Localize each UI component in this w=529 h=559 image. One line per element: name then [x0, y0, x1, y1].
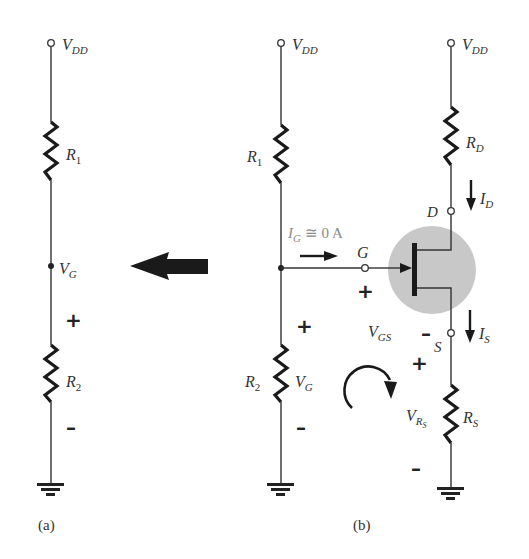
- resistor-r1: [45, 122, 57, 180]
- minus-sign: –: [411, 456, 421, 480]
- label-vrs: VRS: [406, 407, 427, 430]
- vdd-terminal-right: [448, 40, 455, 47]
- label-vdd-right: VDD: [462, 36, 488, 56]
- label-ig: IG ≅ 0 A: [287, 225, 343, 244]
- resistor-rs: [445, 385, 457, 443]
- label-r1: R1: [65, 146, 81, 166]
- ground-icon: [437, 487, 464, 500]
- plus-sign: +: [65, 308, 82, 332]
- ground-icon: [267, 483, 294, 496]
- drain-terminal: [448, 208, 455, 215]
- source-terminal: [448, 330, 455, 337]
- label-vdd-left: VDD: [292, 36, 318, 56]
- minus-sign: –: [66, 415, 76, 439]
- label-vg: VG: [59, 260, 77, 280]
- minus-sign: –: [296, 415, 306, 439]
- caption-b: (b): [353, 517, 371, 534]
- label-is: IS: [478, 325, 490, 345]
- vdd-terminal-left: [278, 40, 285, 47]
- left-arrow-icon: [130, 252, 208, 280]
- circuit-diagram: VDD R1 VG + R2 – (a): [0, 0, 529, 559]
- label-rd: RD: [465, 134, 484, 154]
- minus-sign: –: [421, 321, 431, 345]
- caption-a: (a): [38, 517, 55, 534]
- id-arrow-icon: [466, 180, 476, 211]
- resistor-r2: [45, 345, 57, 402]
- label-vg: VG: [295, 373, 313, 393]
- vg-node: [48, 263, 54, 269]
- label-rs: RS: [462, 409, 479, 429]
- label-r2: R2: [65, 373, 81, 393]
- plus-sign: +: [357, 279, 374, 303]
- ground-icon: [37, 483, 64, 496]
- label-source: S: [434, 339, 442, 355]
- ig-arrow-icon: [300, 251, 338, 261]
- panel-a: VDD R1 VG + R2 – (a): [37, 36, 88, 534]
- resistor-rd: [445, 107, 457, 165]
- gate-terminal: [362, 265, 369, 272]
- loop-arrow-icon: [344, 366, 397, 408]
- label-r1: R1: [246, 148, 262, 168]
- plus-sign: +: [411, 351, 428, 375]
- resistor-r1: [275, 125, 287, 183]
- label-gate: G: [357, 244, 369, 261]
- label-r2: R2: [244, 373, 260, 393]
- plus-sign: +: [296, 314, 313, 338]
- resistor-r2: [275, 345, 287, 402]
- label-drain: D: [426, 204, 438, 220]
- panel-b: VDD VDD R1 RD ID D IG ≅ 0 A G + + VGS – …: [244, 36, 493, 534]
- label-vgs: VGS: [368, 323, 392, 343]
- vdd-terminal: [48, 40, 55, 47]
- jfet-channel: [412, 243, 417, 296]
- label-vdd: VDD: [62, 36, 88, 56]
- label-id: ID: [479, 190, 493, 210]
- is-arrow-icon: [465, 310, 475, 343]
